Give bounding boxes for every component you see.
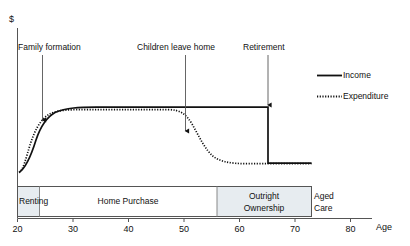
band-label-aged-care-line1: Aged — [314, 191, 354, 201]
band-label-outright-ownership-line2: Ownership — [217, 203, 311, 213]
legend-label-expenditure: Expenditure — [343, 92, 388, 101]
band-label-renting: Renting — [19, 196, 59, 206]
series-income-line — [19, 107, 312, 172]
annotation-label-retirement: Retirement — [243, 43, 285, 52]
x-tick-label-20: 20 — [8, 225, 28, 234]
x-tick-label-40: 40 — [119, 225, 139, 234]
x-tick-label-30: 30 — [63, 225, 83, 234]
legend-label-income: Income — [343, 71, 371, 80]
band-label-home-purchase: Home Purchase — [88, 196, 168, 206]
x-axis-label: Age — [376, 223, 392, 232]
y-axis-label: $ — [9, 15, 14, 24]
annotation-label-children-leave-home: Children leave home — [137, 43, 215, 52]
x-tick-label-60: 60 — [230, 225, 250, 234]
x-tick-label-50: 50 — [174, 225, 194, 234]
band-label-aged-care-line2: Care — [314, 203, 354, 213]
band-label-outright-ownership-line1: Outright — [217, 191, 311, 201]
annotation-label-family-formation: Family formation — [18, 43, 81, 52]
x-tick-label-80: 80 — [341, 225, 361, 234]
chart-canvas: $ Age Family formation Children leave ho… — [0, 0, 410, 246]
x-tick-marks — [18, 219, 351, 223]
x-tick-label-70: 70 — [285, 225, 305, 234]
